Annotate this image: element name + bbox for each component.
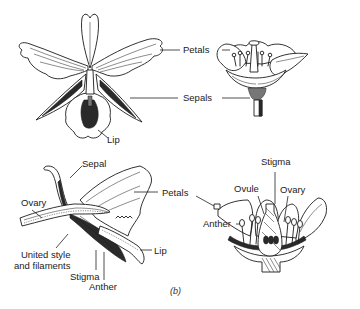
figure-caption: (b)	[170, 286, 181, 296]
label-stigma-bottom-right: Stigma	[261, 157, 291, 167]
label-ovary-bottom-right: Ovary	[280, 185, 305, 195]
section2-ovules	[264, 236, 279, 244]
label-sepal-bottom: Sepal	[82, 159, 106, 169]
leader-united-style	[56, 234, 68, 248]
label-petals-top: Petals	[183, 45, 209, 55]
section2-right-petal	[296, 198, 327, 242]
side-sepals	[248, 88, 266, 100]
label-petals-bottom: Petals	[162, 188, 188, 198]
orchid-front-illustration	[19, 14, 180, 138]
label-united-style-and-filaments: United style and filaments	[14, 250, 71, 272]
label-anther-bottom-left: Anther	[89, 282, 117, 292]
simple-flower-side-illustration	[217, 41, 308, 116]
leader-sepal-arrow	[196, 196, 214, 206]
leader-sepal-bottom	[70, 166, 82, 178]
label-ovary-bottom-left: Ovary	[21, 198, 46, 208]
label-lip-top: Lip	[107, 135, 120, 145]
label-sepals-top: Sepals	[183, 93, 212, 103]
label-ovule: Ovule	[234, 184, 259, 194]
label-anther-bottom-right: Anther	[203, 219, 231, 229]
orchid-right-petal	[92, 39, 162, 76]
label-lip-bottom: Lip	[154, 246, 167, 256]
